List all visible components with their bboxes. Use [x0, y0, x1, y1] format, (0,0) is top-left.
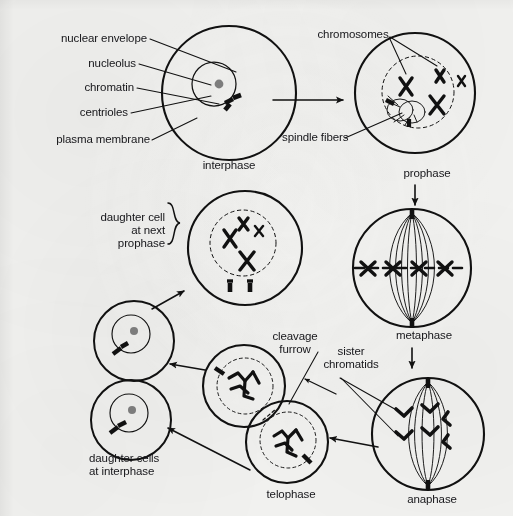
label-daughter-next-prophase-line2: at next — [0, 224, 165, 237]
cell-daughter-lower — [91, 380, 171, 460]
brace-daughter-next-prophase — [168, 203, 180, 244]
chromatin-telophase — [274, 430, 302, 456]
cleavage-furrow-pointer — [305, 379, 336, 394]
cell-daughter-upper — [94, 301, 174, 381]
label-plasma-membrane: plasma membrane — [0, 133, 150, 146]
label-daughter-cells-interphase-line1: daughter cells — [89, 452, 159, 465]
label-cleavage-furrow-line1: cleavage — [258, 330, 332, 343]
label-sister-chromatids-line1: sister — [311, 345, 391, 358]
plasma-membrane-prophase — [355, 33, 475, 153]
chromosomes-next-prophase — [224, 218, 263, 270]
label-daughter-next-prophase-line1: daughter cell — [0, 211, 165, 224]
cell-prophase — [355, 33, 475, 153]
arrow-to-daughter-cell-lower — [168, 428, 250, 470]
leader-lines — [131, 39, 236, 140]
nuclear-envelope-daughter-upper — [112, 315, 150, 353]
diagram-artwork — [0, 0, 513, 516]
stage-label-interphase: interphase — [186, 159, 272, 172]
nucleolus-daughter-lower — [128, 406, 136, 414]
spindle-fibers-prophase — [386, 96, 425, 125]
label-sister-chromatids-line2: chromatids — [305, 358, 397, 371]
centrioles-next-prophase — [227, 281, 253, 292]
chromosomes-metaphase-plate — [355, 262, 462, 275]
plasma-membrane-next-prophase — [188, 191, 302, 305]
stage-label-anaphase: anaphase — [390, 493, 474, 506]
label-daughter-next-prophase-line3: prophase — [0, 237, 165, 250]
stage-label-metaphase: metaphase — [380, 329, 468, 342]
centrioles-interphase — [225, 95, 241, 110]
plasma-membrane-daughter-upper — [94, 301, 174, 381]
spindle-fibers-leader — [345, 113, 402, 138]
plasma-membrane-interphase — [162, 26, 296, 160]
label-chromatin: chromatin — [0, 81, 134, 94]
cell-metaphase — [353, 209, 471, 328]
label-daughter-cells-interphase-line2: at interphase — [89, 465, 154, 478]
centrioles-cytokinesis — [215, 368, 224, 374]
nucleolus-interphase — [215, 80, 224, 89]
arrow-to-daughter-cell-upper — [170, 364, 205, 370]
label-spindle-fibers: spindle fibers — [282, 131, 348, 144]
chromatin-cytokinesis — [229, 372, 259, 399]
label-centrioles: centrioles — [0, 106, 128, 119]
label-chromosomes: chromosomes — [313, 28, 393, 41]
sister-chromatids-leaders — [340, 378, 400, 436]
cell-telophase — [246, 401, 328, 483]
chromosomes-leaders — [389, 37, 437, 74]
plasma-membrane-daughter-lower — [91, 380, 171, 460]
cell-interphase — [162, 26, 296, 160]
mitosis-diagram: nuclear envelope nucleolus chromatin cen… — [0, 0, 513, 516]
label-nuclear-envelope: nuclear envelope — [0, 32, 147, 45]
nucleolus-daughter-upper — [130, 327, 138, 335]
stage-label-telophase: telophase — [249, 488, 333, 501]
arrow-anaphase-to-telophase — [330, 438, 378, 447]
label-nucleolus: nucleolus — [0, 57, 136, 70]
centrioles-telophase — [303, 455, 311, 463]
chromosomes-prophase — [400, 70, 465, 114]
arrow-daughter-to-next-prophase — [152, 291, 184, 309]
stage-label-prophase: prophase — [387, 167, 467, 180]
cell-next-prophase — [188, 191, 302, 305]
cell-cleavage-furrow — [203, 345, 285, 427]
cell-anaphase — [372, 378, 484, 490]
